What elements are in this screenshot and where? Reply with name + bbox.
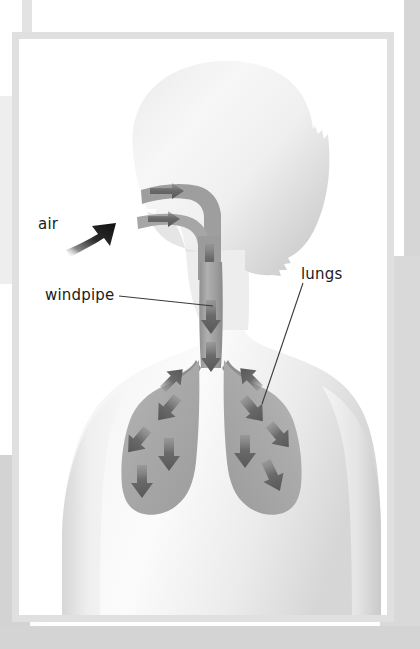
label-air: air (38, 217, 58, 232)
respiratory-system-illustration (0, 0, 420, 649)
air-arrow-shape (66, 223, 116, 257)
label-windpipe: windpipe (45, 288, 115, 303)
label-lungs: lungs (301, 267, 343, 282)
page-root: air windpipe lungs (0, 0, 420, 649)
